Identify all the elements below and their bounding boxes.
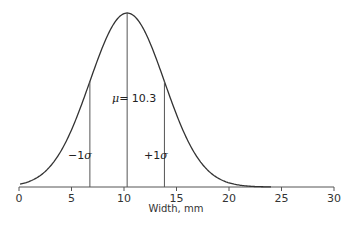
plus-sigma-label: +1σ <box>144 149 168 162</box>
normal-distribution-chart: 051015202530 μ= 10.3 −1σ +1σ Width, mm <box>0 0 356 229</box>
x-tick-label: 5 <box>68 192 75 205</box>
x-tick-label: 25 <box>275 192 289 205</box>
x-tick-label: 0 <box>16 192 23 205</box>
x-tick-label: 20 <box>222 192 236 205</box>
x-tick-label: 10 <box>117 192 131 205</box>
mean-label: μ= 10.3 <box>112 92 156 105</box>
x-axis-title: Width, mm <box>149 203 204 214</box>
minus-sigma-label: −1σ <box>68 149 92 162</box>
chart-container: 051015202530 μ= 10.3 −1σ +1σ Width, mm <box>0 0 356 229</box>
x-tick-label: 30 <box>327 192 341 205</box>
